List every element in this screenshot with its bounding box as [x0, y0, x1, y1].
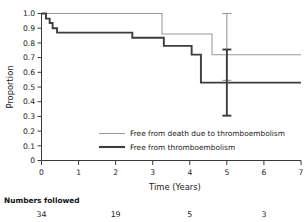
series-line-free-from-thromboembolism	[42, 14, 302, 83]
y-axis-title: Proportion	[5, 65, 15, 108]
y-tick-label: 0.9	[23, 24, 35, 33]
y-tick-label: 0.8	[23, 39, 35, 48]
x-tick-label: 7	[299, 168, 304, 177]
risk-table-values: 34 19 5 3	[37, 210, 267, 219]
y-tick-label: 0.5	[23, 83, 35, 92]
risk-table-value: 5	[187, 210, 192, 219]
y-axis-tick-labels: 0 0.1 0.2 0.3 0.4 0.5 0.6 0.7 0.8 0.9 1.…	[23, 9, 35, 165]
series-line-free-from-death	[42, 14, 302, 55]
y-tick-label: 1.0	[23, 9, 35, 18]
x-tick-label: 5	[224, 168, 229, 177]
y-tick-label: 0	[30, 156, 35, 165]
x-tick-label: 4	[187, 168, 192, 177]
y-tick-label: 0.6	[23, 68, 35, 77]
y-tick-label: 0.2	[23, 127, 35, 136]
survival-curve-figure: 0 0.1 0.2 0.3 0.4 0.5 0.6 0.7 0.8 0.9 1.…	[0, 0, 306, 222]
x-tick-label: 3	[150, 168, 155, 177]
y-tick-label: 0.4	[23, 97, 35, 106]
chart-legend: Free from death due to thromboembolism F…	[99, 129, 285, 152]
x-axis-ticks	[42, 161, 302, 166]
y-tick-label: 0.3	[23, 112, 35, 121]
chart-svg: 0 0.1 0.2 0.3 0.4 0.5 0.6 0.7 0.8 0.9 1.…	[0, 0, 306, 222]
y-axis-ticks	[38, 14, 42, 161]
y-tick-label: 0.1	[23, 142, 35, 151]
risk-table-value: 19	[111, 210, 121, 219]
risk-table-value: 34	[37, 210, 47, 219]
risk-table-value: 3	[261, 210, 266, 219]
x-axis-title: Time (Years)	[148, 182, 201, 192]
x-tick-label: 6	[261, 168, 266, 177]
x-tick-label: 0	[39, 168, 44, 177]
legend-label-free-from-death: Free from death due to thromboembolism	[130, 129, 285, 138]
legend-label-free-from-thromboembolism: Free from thromboembolism	[130, 143, 235, 152]
x-tick-label: 1	[76, 168, 81, 177]
y-tick-label: 0.7	[23, 53, 35, 62]
x-tick-label: 2	[113, 168, 118, 177]
x-axis-tick-labels: 0 1 2 3 4 5 6 7	[39, 168, 304, 177]
risk-table-title: Numbers followed	[4, 196, 80, 205]
